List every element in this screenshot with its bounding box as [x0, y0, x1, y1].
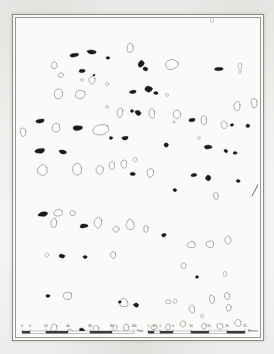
- stone-outline: [144, 226, 148, 233]
- stone-filled: [59, 254, 65, 258]
- stone-outline: [113, 226, 119, 232]
- stone-outline: [165, 300, 170, 304]
- stone-filled: [143, 67, 148, 71]
- stone-outline: [93, 125, 109, 135]
- stone-outline: [81, 79, 84, 82]
- metric-scale-tick-label: 10: [189, 325, 192, 328]
- stone-outline: [189, 305, 194, 313]
- stone-filled: [224, 149, 228, 152]
- stone-filled: [38, 212, 48, 217]
- stone-filled: [129, 90, 136, 93]
- stone-outline: [225, 236, 231, 244]
- stone-filled: [206, 175, 211, 181]
- stone-outline: [217, 323, 223, 329]
- stone-outline: [96, 166, 103, 175]
- imperial-scale-tick-label: 80: [110, 325, 113, 328]
- stone-outline: [238, 63, 241, 70]
- stone-outline: [209, 295, 214, 303]
- imperial-scale-tick-label: 0: [21, 325, 23, 328]
- stone-outline: [201, 116, 206, 125]
- stone-outline: [187, 241, 195, 248]
- stone-outline: [180, 321, 185, 327]
- stone-outline: [127, 43, 133, 52]
- stone-outline: [51, 324, 57, 332]
- stone-outline: [147, 169, 154, 178]
- stone-outline: [20, 128, 25, 137]
- scan-speck: [63, 10, 65, 12]
- stone-outline: [173, 299, 177, 303]
- north-arrow-shaft: [252, 173, 258, 196]
- stone-filled: [230, 124, 233, 127]
- metric-scale-tick-label: 1: [147, 325, 149, 328]
- stone-filled: [59, 150, 66, 154]
- stone-filled: [233, 152, 237, 155]
- stone-outline: [94, 217, 102, 228]
- stone-filled: [246, 124, 250, 127]
- stone-plan-svg: N: [16, 18, 258, 335]
- stone-outline: [51, 62, 57, 69]
- stone-filled: [164, 143, 168, 147]
- imperial-scale-tick-label: 20: [44, 325, 47, 328]
- stone-outline: [93, 325, 99, 331]
- filled-stones-group: [35, 50, 258, 332]
- stone-filled: [130, 172, 135, 175]
- metric-scale-unit-label: Metres: [248, 330, 257, 333]
- metric-scale-tick-label: 25: [243, 325, 246, 328]
- stone-filled: [80, 224, 88, 228]
- stone-outline: [251, 98, 257, 107]
- stone-outline: [221, 121, 227, 129]
- metric-scale-tick-label: 0: [153, 325, 155, 328]
- stone-outline: [54, 209, 63, 216]
- stone-outline: [68, 329, 72, 333]
- stone-filled: [79, 69, 85, 72]
- stone-outline: [149, 109, 154, 119]
- stone-filled: [173, 188, 177, 191]
- stone-outline: [133, 158, 137, 162]
- stone-outline: [89, 76, 95, 84]
- stone-filled: [35, 148, 45, 153]
- stone-filled: [87, 50, 96, 54]
- stone-filled: [191, 174, 197, 177]
- stone-filled: [145, 86, 153, 92]
- stone-outline: [45, 253, 49, 257]
- metric-scale-tick-label: 15: [207, 325, 210, 328]
- stone-outline: [73, 163, 82, 175]
- stone-outline: [166, 59, 179, 69]
- imperial-scale-tick-label: 60: [88, 325, 91, 328]
- stone-outline: [63, 292, 71, 299]
- stone-filled: [195, 275, 198, 278]
- stone-outline: [173, 110, 180, 118]
- stone-filled: [106, 57, 110, 60]
- stone-filled: [236, 179, 240, 182]
- stone-filled: [135, 110, 141, 115]
- stone-outline: [223, 271, 226, 276]
- stone-outline: [58, 73, 63, 78]
- imperial-scale-tick-label: 100: [131, 325, 136, 328]
- stone-filled: [83, 255, 87, 258]
- stone-filled: [204, 145, 212, 149]
- stone-filled: [109, 136, 112, 139]
- stone-outline: [111, 252, 116, 258]
- stone-outline: [226, 305, 231, 312]
- stone-outline: [224, 292, 229, 299]
- stone-filled: [46, 294, 50, 297]
- stone-filled: [154, 92, 158, 95]
- stone-outline: [37, 164, 47, 175]
- stone-filled: [214, 67, 222, 70]
- stone-filled: [73, 126, 82, 131]
- stone-outline: [126, 219, 134, 229]
- stone-filled: [162, 234, 166, 237]
- site-plan-canvas: N: [16, 18, 258, 335]
- metric-scale-tick-label: 20: [225, 325, 228, 328]
- stone-outline: [106, 106, 109, 109]
- stone-outline: [206, 241, 214, 248]
- stone-outline: [121, 160, 127, 168]
- stone-outline: [166, 324, 171, 330]
- stone-outline: [214, 192, 219, 199]
- stone-filled: [80, 328, 85, 332]
- stone-outline: [198, 137, 201, 139]
- stone-outline: [181, 263, 186, 269]
- stone-filled: [122, 136, 128, 140]
- stone-outline: [210, 18, 214, 22]
- stone-outline: [173, 121, 175, 123]
